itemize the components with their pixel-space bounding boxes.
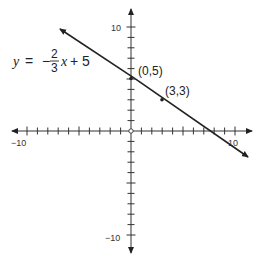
point-3-3	[160, 98, 164, 102]
equation-equals: =	[25, 53, 33, 69]
origin-marker	[129, 129, 133, 133]
equation-rest: + 5	[70, 53, 90, 69]
fraction-denominator: 3	[51, 61, 58, 75]
equation-variable: x	[60, 54, 68, 69]
equation-sign: −	[42, 53, 50, 69]
point-0-5	[129, 77, 133, 81]
fraction-numerator: 2	[51, 47, 58, 61]
equation-lhs: y	[11, 54, 20, 69]
coordinate-plane: −10 10 10 −10 (0,5) (3,3) y = − 2 3 x + …	[0, 0, 264, 262]
point-label-0-5: (0,5)	[138, 64, 163, 78]
graph-line-lower	[135, 79, 248, 157]
y-max-label: 10	[111, 23, 121, 33]
point-label-3-3: (3,3)	[165, 84, 190, 98]
y-min-label: −10	[105, 233, 120, 243]
equation-label: y = − 2 3 x + 5	[11, 47, 90, 75]
x-min-label: −10	[11, 138, 26, 148]
